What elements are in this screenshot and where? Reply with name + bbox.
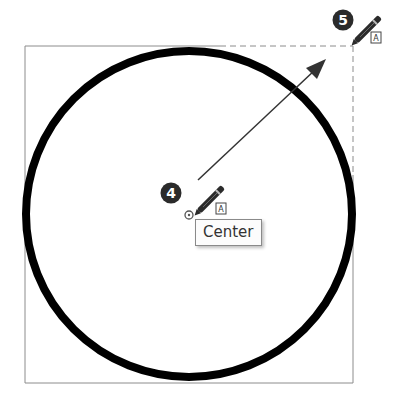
- center-snap-marker-icon: [185, 211, 193, 219]
- text-snap-icon: A: [216, 203, 226, 214]
- svg-text:A: A: [373, 34, 379, 43]
- svg-text:5: 5: [338, 12, 348, 28]
- step-badge-5: 5: [333, 10, 354, 31]
- drawing-canvas[interactable]: 4 A 5 A: [0, 0, 395, 404]
- text-snap-icon: A: [371, 32, 381, 43]
- snap-tooltip: Center: [195, 219, 262, 246]
- svg-text:4: 4: [166, 185, 176, 201]
- svg-text:A: A: [218, 205, 224, 214]
- step-badge-4: 4: [161, 183, 182, 204]
- radius-arrow: [198, 59, 326, 180]
